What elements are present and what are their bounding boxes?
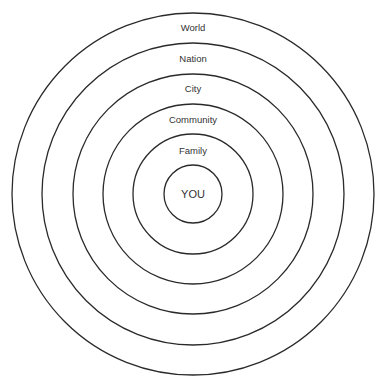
label-nation: Nation (179, 53, 206, 64)
label-family: Family (179, 145, 207, 156)
label-world: World (181, 22, 206, 33)
concentric-circles-diagram: World Nation City Community Family YOU (0, 0, 386, 386)
label-city: City (185, 83, 201, 94)
label-community: Community (169, 114, 217, 125)
label-you: YOU (181, 188, 205, 200)
